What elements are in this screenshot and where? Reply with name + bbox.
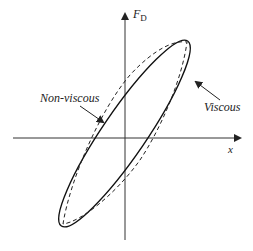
y-axis-label-sub: D (140, 13, 147, 23)
non-viscous-arrow (80, 106, 103, 122)
x-axis-label: x (228, 143, 233, 155)
viscous-label: Viscous (204, 100, 240, 115)
y-axis-label: FD (133, 7, 147, 23)
hysteresis-diagram (0, 0, 253, 251)
non-viscous-label: Non-viscous (40, 91, 99, 106)
viscous-arrow (196, 82, 220, 100)
